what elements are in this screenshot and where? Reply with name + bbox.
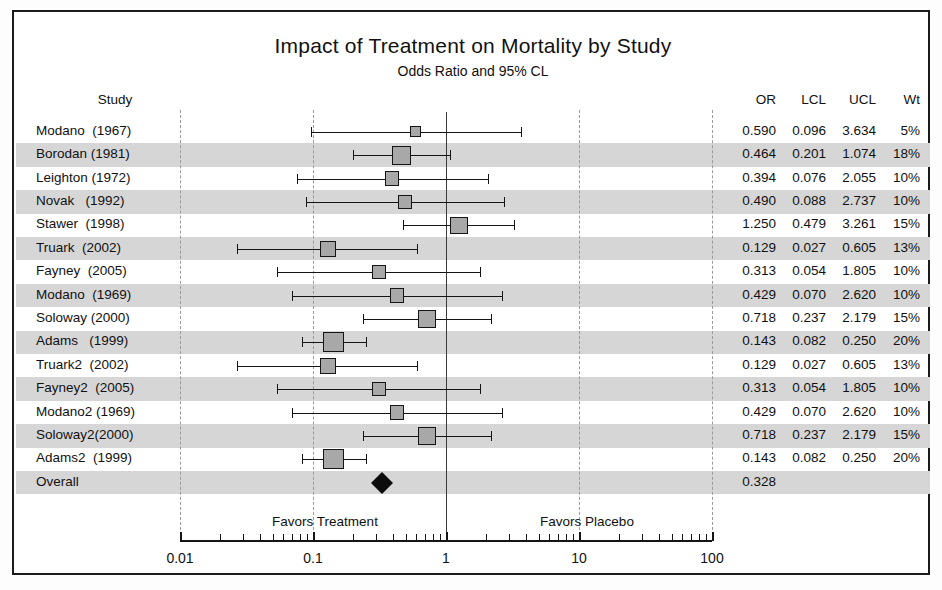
cell-wt: 10% xyxy=(870,287,920,302)
axis-tick-minor xyxy=(440,534,441,541)
study-label: Adams (1999) xyxy=(36,333,128,348)
cell-ucl: 0.605 xyxy=(817,240,876,255)
ci-cap-upper xyxy=(450,150,451,160)
axis-tick-minor xyxy=(682,534,683,541)
ci-cap-upper xyxy=(366,337,367,347)
study-effect-marker xyxy=(385,171,399,185)
axis-tick-minor xyxy=(433,534,434,541)
cell-ucl: 2.055 xyxy=(817,170,876,185)
axis-tick-minor xyxy=(691,534,692,541)
study-effect-marker xyxy=(450,217,467,234)
cell-wt: 13% xyxy=(870,357,920,372)
cell-wt: 20% xyxy=(870,333,920,348)
null-effect-line xyxy=(446,112,447,532)
axis-tick-minor xyxy=(283,534,284,541)
axis-tick-minor xyxy=(526,534,527,541)
axis-tick-minor xyxy=(292,534,293,541)
axis-tick-minor xyxy=(300,534,301,541)
chart-subtitle: Odds Ratio and 95% CL xyxy=(14,63,932,79)
cell-wt: 15% xyxy=(870,310,920,325)
study-label: Novak (1992) xyxy=(36,193,125,208)
axis-tick-major xyxy=(180,532,182,541)
study-label: Modano2 (1969) xyxy=(36,404,135,419)
plot-frame: Impact of Treatment on Mortality by Stud… xyxy=(12,10,930,575)
cell-wt: 15% xyxy=(870,427,920,442)
axis-tick-label: 0.1 xyxy=(283,550,343,566)
study-effect-marker xyxy=(390,288,404,302)
axis-tick-minor xyxy=(672,534,673,541)
axis-tick-minor xyxy=(566,534,567,541)
study-label: Leighton (1972) xyxy=(36,170,131,185)
column-header-ucl: UCL xyxy=(830,92,876,107)
study-effect-marker xyxy=(320,358,336,374)
study-label: Soloway (2000) xyxy=(36,310,130,325)
favors-placebo-label: Favors Placebo xyxy=(462,514,712,529)
cell-wt: 13% xyxy=(870,240,920,255)
axis-tick-minor xyxy=(243,534,244,541)
cell-wt: 18% xyxy=(870,146,920,161)
ci-cap-upper xyxy=(417,361,418,371)
axis-tick-minor xyxy=(393,534,394,541)
axis-tick-major xyxy=(446,532,448,541)
page-title: Impact of Treatment on Mortality by Stud… xyxy=(14,34,932,58)
cell-ucl: 1.805 xyxy=(817,380,876,395)
study-label: Fayney (2005) xyxy=(36,263,127,278)
ci-cap-lower xyxy=(353,150,354,160)
study-effect-marker xyxy=(390,405,404,419)
gridline xyxy=(313,110,314,530)
summary-diamond-bottom xyxy=(371,483,393,494)
ci-cap-upper xyxy=(521,127,522,137)
study-effect-marker xyxy=(398,195,412,209)
study-label: Stawer (1998) xyxy=(36,216,125,231)
axis-tick-minor xyxy=(273,534,274,541)
favors-treatment-label: Favors Treatment xyxy=(200,514,450,529)
axis-tick-major xyxy=(712,532,714,541)
ci-cap-lower xyxy=(292,291,293,301)
cell-ucl: 2.620 xyxy=(817,404,876,419)
axis-tick-label: 0.01 xyxy=(150,550,210,566)
cell-wt: 15% xyxy=(870,216,920,231)
study-effect-marker xyxy=(392,146,411,165)
axis-tick-minor xyxy=(353,534,354,541)
axis-tick-minor xyxy=(699,534,700,541)
column-header-wt: Wt xyxy=(880,92,920,107)
summary-diamond-top xyxy=(371,472,393,483)
axis-tick-minor xyxy=(539,534,540,541)
forest-plot-figure: Impact of Treatment on Mortality by Stud… xyxy=(0,0,942,590)
axis-tick-label: 100 xyxy=(682,550,742,566)
axis-tick-minor xyxy=(509,534,510,541)
study-effect-marker xyxy=(418,310,435,327)
column-header-or: OR xyxy=(730,92,776,107)
cell-ucl: 2.737 xyxy=(817,193,876,208)
study-effect-marker xyxy=(372,382,386,396)
axis-tick-minor xyxy=(486,534,487,541)
axis-tick-minor xyxy=(642,534,643,541)
ci-cap-lower xyxy=(237,361,238,371)
cell-ucl: 2.179 xyxy=(817,427,876,442)
axis-tick-minor xyxy=(220,534,221,541)
ci-cap-upper xyxy=(480,384,481,394)
ci-cap-upper xyxy=(417,244,418,254)
axis-tick-major xyxy=(579,532,581,541)
ci-cap-lower xyxy=(277,384,278,394)
axis-tick-label: 1 xyxy=(416,550,476,566)
cell-ucl: 3.634 xyxy=(817,123,876,138)
cell-wt: 10% xyxy=(870,404,920,419)
ci-cap-lower xyxy=(292,408,293,418)
cell-ucl: 0.250 xyxy=(817,450,876,465)
study-label: Truark (2002) xyxy=(36,240,121,255)
cell-wt: 20% xyxy=(870,450,920,465)
study-label: Modano (1967) xyxy=(36,123,131,138)
axis-tick-minor xyxy=(425,534,426,541)
axis-tick-minor xyxy=(376,534,377,541)
cell-ucl: 0.605 xyxy=(817,357,876,372)
study-label: Borodan (1981) xyxy=(36,146,130,161)
axis-tick-minor xyxy=(558,534,559,541)
study-label: Truark2 (2002) xyxy=(36,357,129,372)
ci-cap-lower xyxy=(297,174,298,184)
ci-cap-upper xyxy=(491,431,492,441)
ci-cap-lower xyxy=(363,431,364,441)
cell-or: 0.328 xyxy=(717,474,776,489)
ci-cap-upper xyxy=(480,267,481,277)
column-header-study: Study xyxy=(60,92,170,107)
